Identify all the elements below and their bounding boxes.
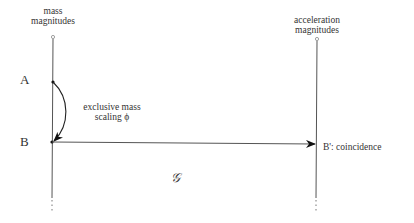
mass-axis bbox=[51, 35, 54, 212]
scaling-arrow bbox=[53, 82, 66, 141]
scaling-label-line1: exclusive mass bbox=[72, 102, 152, 112]
acceleration-axis-title: acceleration magnitudes bbox=[275, 15, 359, 35]
point-a-label: A bbox=[20, 75, 29, 85]
acceleration-axis-title-line2: magnitudes bbox=[275, 25, 359, 35]
acceleration-axis-title-line1: acceleration bbox=[275, 15, 359, 25]
map-arrow bbox=[52, 142, 315, 144]
acceleration-axis bbox=[315, 37, 318, 212]
point-b-prime-label: B': coincidence bbox=[323, 142, 381, 152]
scaling-label-line2: scaling ϕ bbox=[72, 112, 152, 122]
mass-axis-title-line1: mass bbox=[18, 6, 88, 16]
point-b-label: B bbox=[20, 137, 29, 147]
scaling-label: exclusive mass scaling ϕ bbox=[72, 102, 152, 122]
mass-axis-title-line2: magnitudes bbox=[18, 16, 88, 26]
mass-axis-title: mass magnitudes bbox=[18, 6, 88, 26]
map-g-label: 𝒢 bbox=[171, 173, 180, 183]
